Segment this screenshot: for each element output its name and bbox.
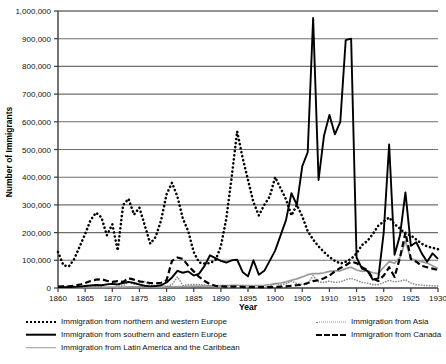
y-axis-ticks: 0100,000200,000300,000400,000500,000600,… — [15, 7, 58, 293]
y-tick-label: 900,000 — [22, 35, 51, 44]
y-tick-label: 300,000 — [22, 201, 51, 210]
series-line — [58, 18, 438, 287]
y-tick-label: 400,000 — [22, 173, 51, 182]
legend-column-left: Immigration from northern and western Eu… — [26, 316, 316, 355]
y-tick-label: 600,000 — [22, 118, 51, 127]
y-tick-label: 1,000,000 — [15, 7, 51, 16]
legend-item-southern-eastern-europe[interactable]: Immigration from southern and eastern Eu… — [26, 329, 316, 340]
legend-item-northern-western-europe[interactable]: Immigration from northern and western Eu… — [26, 316, 316, 327]
x-tick-label: 1915 — [348, 294, 366, 303]
y-tick-label: 700,000 — [22, 90, 51, 99]
legend-column-right: Immigration from Asia Immigration from C… — [316, 316, 446, 342]
legend-item-latin-america-caribbean[interactable]: Immigration from Latin America and the C… — [26, 342, 316, 353]
x-tick-label: 1920 — [375, 294, 393, 303]
legend-swatch-solid-heavy-icon — [26, 329, 56, 340]
x-tick-label: 1860 — [49, 294, 67, 303]
legend-item-asia[interactable]: Immigration from Asia — [316, 316, 446, 327]
legend-item-canada[interactable]: Immigration from Canada — [316, 329, 446, 340]
y-tick-label: 500,000 — [22, 146, 51, 155]
legend-swatch-solid-light-icon — [26, 342, 56, 353]
y-axis-title-text: Number of Immigrants — [4, 106, 14, 197]
chart-canvas: Number of Immigrants 0100,000200,000300,… — [0, 0, 446, 364]
legend-swatch-dotted-light-icon — [316, 316, 346, 327]
x-tick-label: 1900 — [266, 294, 284, 303]
y-tick-label: 100,000 — [22, 256, 51, 265]
legend-swatch-dotted-heavy-icon — [26, 316, 56, 327]
legend-label-latin-america-caribbean: Immigration from Latin America and the C… — [61, 342, 240, 353]
x-tick-label: 1925 — [402, 294, 420, 303]
legend-swatch-dashed-heavy-icon — [316, 329, 346, 340]
legend-label-canada: Immigration from Canada — [351, 329, 441, 340]
x-axis-title-text: Year — [239, 302, 258, 312]
y-axis-title: Number of Immigrants — [4, 106, 14, 197]
legend-label-northern-western-europe: Immigration from northern and western Eu… — [61, 316, 227, 327]
series-line — [58, 132, 438, 267]
x-tick-label: 1885 — [185, 294, 203, 303]
x-axis-ticks: 1860186518701875188018851890189519001905… — [49, 288, 446, 303]
immigration-line-chart-figure: Number of Immigrants 0100,000200,000300,… — [0, 0, 446, 364]
y-tick-label: 0 — [47, 284, 52, 293]
legend-label-asia: Immigration from Asia — [351, 316, 428, 327]
x-tick-label: 1870 — [103, 294, 121, 303]
x-tick-label: 1890 — [212, 294, 230, 303]
x-tick-label: 1910 — [321, 294, 339, 303]
x-tick-label: 1905 — [293, 294, 311, 303]
y-tick-label: 200,000 — [22, 229, 51, 238]
legend-label-southern-eastern-europe: Immigration from southern and eastern Eu… — [61, 329, 227, 340]
data-series-layer — [58, 18, 438, 288]
x-tick-label: 1880 — [158, 294, 176, 303]
x-tick-label: 1875 — [131, 294, 149, 303]
chart-legend: Immigration from northern and western Eu… — [26, 316, 440, 360]
y-tick-label: 800,000 — [22, 62, 51, 71]
x-tick-label: 1865 — [76, 294, 94, 303]
x-tick-label: 1930 — [429, 294, 446, 303]
